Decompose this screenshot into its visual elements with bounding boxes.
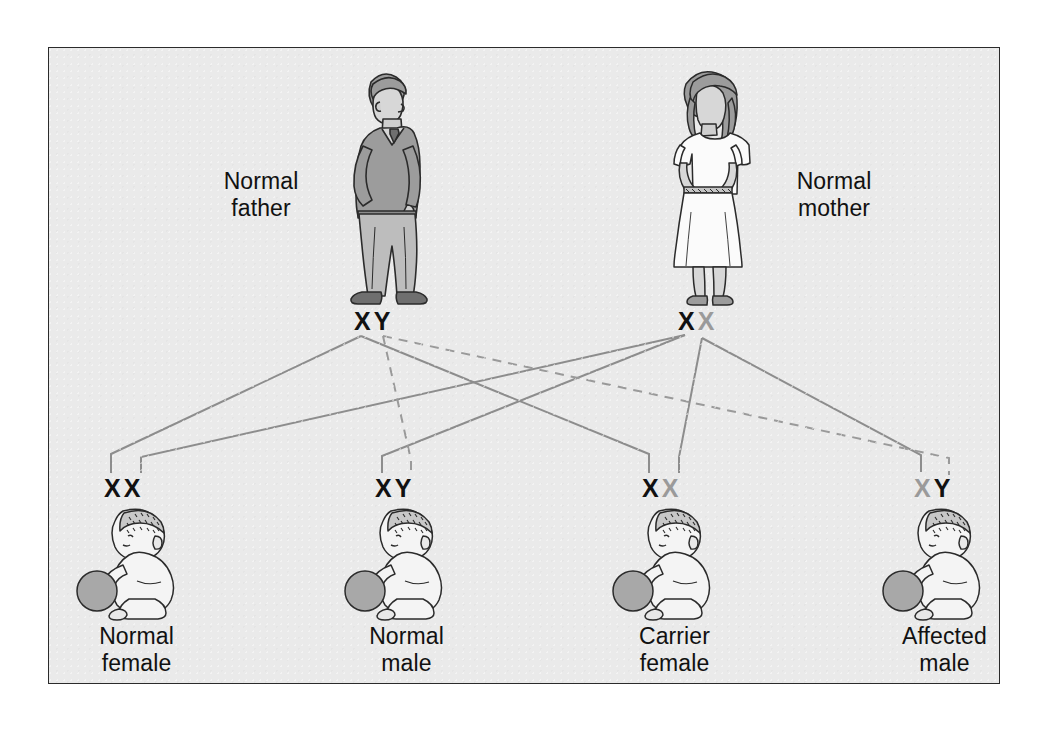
- baby-illustration: [877, 503, 1000, 623]
- baby-illustration: [339, 503, 474, 623]
- child-1-allele-1: X: [104, 474, 124, 502]
- child-1-label: Normal female: [59, 623, 214, 677]
- father-label: Normal father: [181, 168, 341, 222]
- child-4-figure: [877, 503, 1000, 623]
- mother-label: Normal mother: [749, 168, 919, 222]
- child-1-allele-2: X: [124, 474, 144, 502]
- child-1-genotype: XX: [104, 476, 143, 501]
- diagram-panel: Normal father XY: [48, 47, 1000, 684]
- child-3-allele-1: X: [642, 474, 662, 502]
- child-1-figure: [71, 503, 206, 623]
- child-2-allele-1: X: [375, 474, 395, 502]
- child-4-allele-2: Y: [934, 474, 954, 502]
- mother-allele-x-normal: X: [678, 307, 698, 335]
- child-2-figure: [339, 503, 474, 623]
- adult-female-illustration: [653, 62, 763, 310]
- line-mother-xnormal-to-child1: [141, 335, 685, 473]
- child-2-allele-2: Y: [395, 474, 415, 502]
- baby-illustration: [71, 503, 206, 623]
- baby-illustration: [607, 503, 742, 623]
- mother-allele-x-mutant: X: [698, 307, 718, 335]
- child-4-label: Affected male: [867, 623, 1000, 677]
- father-genotype: XY: [354, 309, 393, 334]
- child-3-genotype: XX: [642, 476, 681, 501]
- line-father-x-to-child1: [111, 336, 361, 473]
- child-2-label: Normal male: [329, 623, 484, 677]
- child-3-label: Carrier female: [597, 623, 752, 677]
- father-figure: [327, 62, 447, 307]
- adult-male-illustration: [327, 62, 447, 307]
- line-mother-xmutant-to-child3: [679, 338, 702, 473]
- mother-genotype: XX: [678, 309, 717, 334]
- father-allele-x: X: [354, 307, 374, 335]
- child-3-figure: [607, 503, 742, 623]
- figure-page: Normal father XY: [0, 0, 1049, 742]
- line-mother-xmutant-to-child4: [702, 338, 921, 472]
- line-mother-xnormal-to-child2: [382, 335, 685, 473]
- father-allele-y: Y: [374, 307, 394, 335]
- child-4-genotype: XY: [914, 476, 953, 501]
- child-3-allele-2: X: [662, 474, 682, 502]
- mother-figure: [653, 62, 763, 310]
- child-2-genotype: XY: [375, 476, 414, 501]
- line-father-y-to-child4: [383, 336, 949, 475]
- child-4-allele-1: X: [914, 474, 934, 502]
- line-father-x-to-child3: [361, 336, 649, 473]
